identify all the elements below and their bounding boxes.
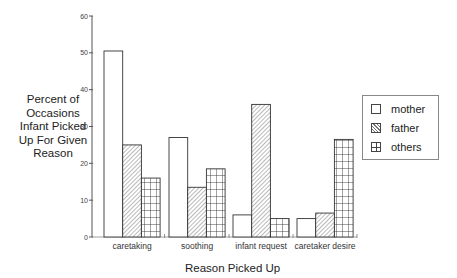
bar-father-soothing	[188, 187, 207, 237]
bar-father-caretaker-desire	[316, 213, 335, 237]
bar-mother-soothing	[169, 138, 188, 237]
bar-father-infant-request	[252, 104, 271, 237]
y-axis-label-line: Reason	[14, 147, 92, 161]
legend-swatch-hatch	[371, 123, 381, 133]
bar-father-caretaking	[123, 145, 142, 237]
legend-swatch-plain	[371, 104, 381, 114]
legend: mother father others	[362, 95, 439, 160]
y-axis-label-line: Occasions	[14, 107, 92, 121]
bar-mother-infant-request	[233, 215, 252, 237]
bar-others-caretaking	[141, 178, 160, 237]
y-axis-label-line: Percent of	[14, 93, 92, 107]
x-category-label: caretaker desire	[295, 241, 356, 251]
legend-item-others: others	[371, 140, 422, 154]
y-tick-label: 60	[80, 13, 88, 20]
y-axis-label-line: Up For Given	[14, 134, 92, 148]
bar-mother-caretaking	[104, 51, 123, 237]
bar-mother-caretaker-desire	[297, 219, 316, 237]
legend-swatch-grid	[371, 142, 381, 152]
x-category-label: caretaking	[112, 241, 151, 251]
x-axis-label: Reason Picked Up	[185, 262, 280, 274]
legend-label: mother	[391, 103, 425, 115]
legend-item-father: father	[371, 121, 419, 135]
x-category-label: soothing	[181, 241, 213, 251]
x-category-label: infant request	[235, 241, 287, 251]
legend-label: father	[391, 122, 419, 134]
legend-label: others	[391, 141, 422, 153]
y-tick-label: 50	[80, 49, 88, 56]
x-category-labels: caretakingsoothinginfant requestcaretake…	[112, 241, 355, 251]
legend-item-mother: mother	[371, 102, 425, 116]
y-axis-label-line: Infant Picked	[14, 120, 92, 134]
y-tick-label: 0	[84, 234, 88, 241]
bars	[104, 51, 353, 237]
bar-others-soothing	[206, 169, 225, 237]
bar-others-caretaker-desire	[334, 139, 353, 237]
bar-others-infant-request	[270, 219, 289, 237]
y-axis-label: Percent of Occasions Infant Picked Up Fo…	[14, 93, 92, 161]
y-tick-label: 10	[80, 197, 88, 204]
